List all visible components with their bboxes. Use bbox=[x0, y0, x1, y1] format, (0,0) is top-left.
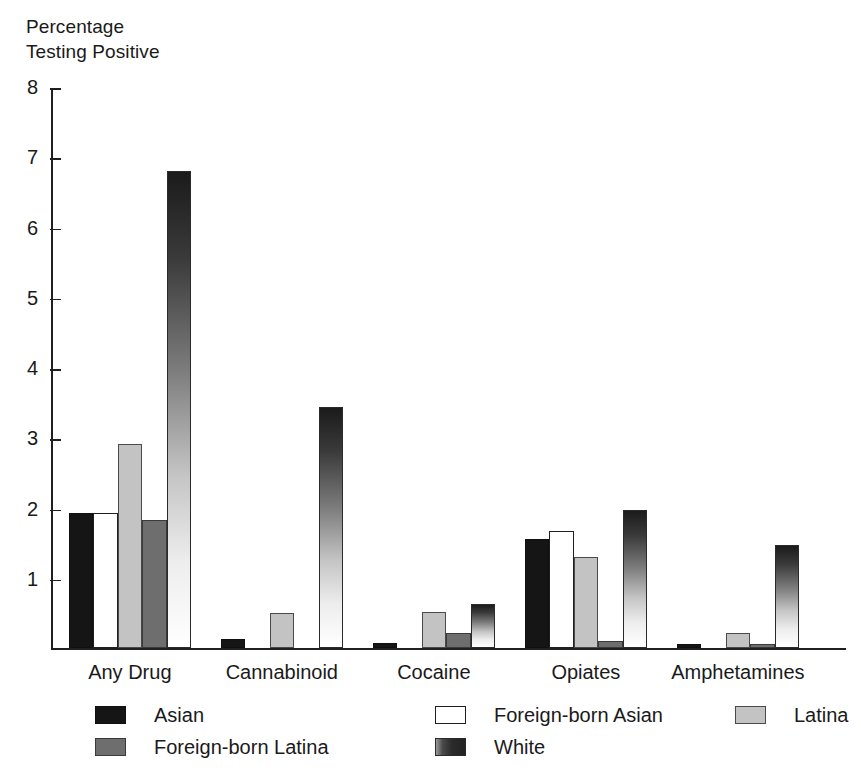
x-axis-category-label: Cocaine bbox=[397, 658, 470, 686]
y-axis-tick-label: 4 bbox=[27, 357, 38, 379]
legend-swatch bbox=[435, 738, 466, 756]
legend-swatch bbox=[95, 738, 126, 756]
bar bbox=[319, 407, 344, 648]
bar bbox=[623, 510, 648, 648]
legend-entry: White bbox=[435, 735, 545, 759]
legend-label: Latina bbox=[794, 703, 849, 727]
bar-chart: Percentage Testing Positive 12345678 Any… bbox=[0, 0, 861, 782]
bar bbox=[142, 520, 167, 648]
chart-legend: AsianForeign-born LatinaForeign-born Asi… bbox=[0, 703, 861, 767]
bar bbox=[750, 644, 775, 648]
legend-entry: Foreign-born Latina bbox=[95, 735, 329, 759]
legend-swatch bbox=[95, 706, 126, 724]
x-axis-category-labels: Any DrugCannabinoidCocaineOpiatesAmpheta… bbox=[51, 658, 846, 692]
y-axis-tick-label: 1 bbox=[27, 568, 38, 590]
bar bbox=[598, 641, 623, 649]
x-axis-category-label: Any Drug bbox=[88, 658, 171, 686]
x-axis-category-label: Amphetamines bbox=[671, 658, 804, 686]
legend-label: Asian bbox=[154, 703, 204, 727]
legend-entry: Asian bbox=[95, 703, 204, 727]
y-axis-tick-label: 3 bbox=[27, 427, 38, 449]
bar bbox=[118, 444, 143, 649]
legend-label: Foreign-born Latina bbox=[154, 735, 329, 759]
bar bbox=[574, 557, 599, 648]
y-axis-tick-label: 7 bbox=[27, 146, 38, 168]
y-axis-tick-label: 6 bbox=[27, 217, 38, 239]
y-axis-tick-label: 2 bbox=[27, 498, 38, 520]
bar bbox=[775, 545, 800, 649]
bars-layer bbox=[53, 88, 846, 648]
bar bbox=[93, 513, 118, 648]
legend-entry: Foreign-born Asian bbox=[435, 703, 663, 727]
y-axis-tick-label: 5 bbox=[27, 287, 38, 309]
bar bbox=[726, 633, 751, 648]
x-axis-category-label: Opiates bbox=[551, 658, 620, 686]
bar bbox=[525, 539, 550, 648]
plot-area: 12345678 bbox=[51, 88, 846, 650]
bar bbox=[69, 513, 94, 648]
bar bbox=[167, 171, 192, 649]
legend-label: Foreign-born Asian bbox=[494, 703, 663, 727]
legend-swatch bbox=[735, 706, 766, 724]
bar bbox=[422, 612, 447, 648]
bar bbox=[471, 604, 496, 649]
x-axis-line bbox=[51, 648, 846, 650]
bar bbox=[373, 643, 398, 649]
bar bbox=[270, 613, 295, 648]
y-axis-title: Percentage Testing Positive bbox=[26, 14, 160, 64]
legend-entry: Latina bbox=[735, 703, 849, 727]
bar bbox=[446, 633, 471, 648]
y-axis-tick-label: 8 bbox=[27, 76, 38, 98]
x-axis-category-label: Cannabinoid bbox=[226, 658, 338, 686]
bar bbox=[221, 639, 246, 648]
bar bbox=[549, 531, 574, 649]
legend-swatch bbox=[435, 706, 466, 724]
legend-label: White bbox=[494, 735, 545, 759]
bar bbox=[677, 644, 702, 649]
